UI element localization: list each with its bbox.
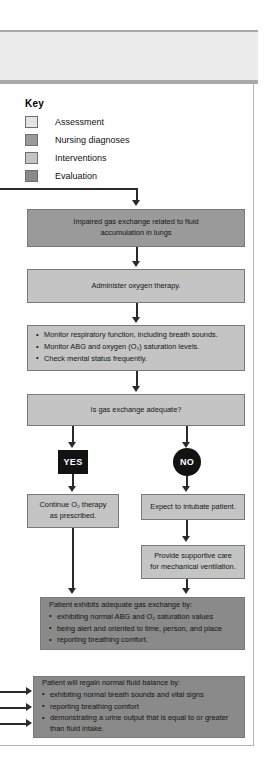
key-swatch-interventions [25,152,38,164]
intervention-text: Administer oxygen therapy. [34,281,238,292]
connector-2-arrow [132,317,140,323]
supportive-line-1: Provide supportive care [148,551,238,562]
header-rule-bottom [0,80,258,84]
connector-no-arrow-2 [182,486,190,492]
evaluation-bullet: reporting breathing comfort. [49,635,236,646]
key-item-evaluation: Evaluation [25,168,215,184]
outcome-bullet: reporting breathing comfort [42,702,236,713]
supportive-line-2: for mechanical ventilation. [148,562,238,573]
key-swatch-evaluation [25,170,38,182]
no-badge: NO [173,448,201,476]
yes-badge: YES [58,450,88,474]
incoming-arrow-1-head [26,687,32,695]
continue-line-2: as prescribed. [34,511,112,522]
key-legend: Key Assessment Nursing diagnoses Interve… [25,98,215,186]
box-evaluation: Patient exhibits adequate gas exchange b… [40,597,245,650]
key-title: Key [25,98,215,109]
key-label-nursing-diagnoses: Nursing diagnoses [55,135,130,145]
monitoring-bullet: Monitor respiratory function, including … [36,330,236,341]
outcome-bullet: demonstrating a urine output that is equ… [42,713,236,734]
connector-entry-arrow [132,200,140,206]
box-expected-outcome: Patient will regain normal fluid balance… [33,676,245,738]
connector-merge-left-vertical [72,528,74,590]
connector-merge-left-arrow [68,588,76,594]
flowchart-page: Key Assessment Nursing diagnoses Interve… [0,0,274,779]
diagnosis-line-1: Impaired gas exchange related to fluid [34,217,238,228]
evaluation-bullet: exhibiting normal ABG and O₂ saturation … [49,612,236,623]
connector-yes-arrow-2 [68,486,76,492]
intubate-text: Expect to intubate patient. [148,502,238,513]
evaluation-bullet: being alert and oriented to time, person… [49,624,236,635]
decision-text: Is gas exchange adequate? [34,405,238,416]
monitoring-bullet: Monitor ABG and oxygen (O₂) saturation l… [36,342,236,353]
header-band [0,32,258,82]
box-continue-oxygen: Continue O₂ therapy as prescribed. [27,494,119,528]
key-label-interventions: Interventions [55,153,107,163]
key-item-interventions: Interventions [25,150,215,166]
incoming-arrow-3-line [0,723,27,725]
key-swatch-nursing-diagnoses [25,134,38,146]
connector-merge-right-arrow [182,588,190,594]
outcome-bullet: exhibiting normal breath sounds and vita… [42,690,236,701]
box-administer-oxygen: Administer oxygen therapy. [27,269,245,303]
evaluation-lead: Patient exhibits adequate gas exchange b… [49,600,236,611]
box-nursing-diagnosis: Impaired gas exchange related to fluid a… [27,209,245,247]
key-item-assessment: Assessment [25,114,215,130]
continue-line-1: Continue O₂ therapy [34,500,112,511]
connector-no-arrow-3 [182,536,190,542]
box-monitoring: Monitor respiratory function, including … [27,325,245,371]
box-expect-intubate: Expect to intubate patient. [141,494,245,520]
monitoring-bullet-list: Monitor respiratory function, including … [36,330,236,364]
connector-3-arrow [132,386,140,392]
incoming-arrow-2-head [26,703,32,711]
box-decision-gas-exchange: Is gas exchange adequate? [27,394,245,426]
evaluation-bullet-list: exhibiting normal ABG and O₂ saturation … [49,612,236,646]
page-border-bottom [0,745,254,746]
incoming-arrow-1-line [0,691,27,693]
connector-1-arrow [132,261,140,267]
box-supportive-care: Provide supportive care for mechanical v… [141,545,245,579]
key-item-nursing-diagnoses: Nursing diagnoses [25,132,215,148]
key-label-assessment: Assessment [55,117,104,127]
outcome-lead: Patient will regain normal fluid balance… [42,678,236,689]
incoming-arrow-3-head [26,719,32,727]
monitoring-bullet: Check mental status frequently. [36,354,236,365]
connector-entry-horizontal [0,188,138,190]
connector-yes-arrow [68,442,76,448]
outcome-bullet-list: exhibiting normal breath sounds and vita… [42,690,236,735]
key-label-evaluation: Evaluation [55,171,97,181]
page-border-right [253,84,254,745]
key-swatch-assessment [25,116,38,128]
incoming-arrow-2-line [0,707,27,709]
diagnosis-line-2: accumulation in lungs [34,228,238,239]
